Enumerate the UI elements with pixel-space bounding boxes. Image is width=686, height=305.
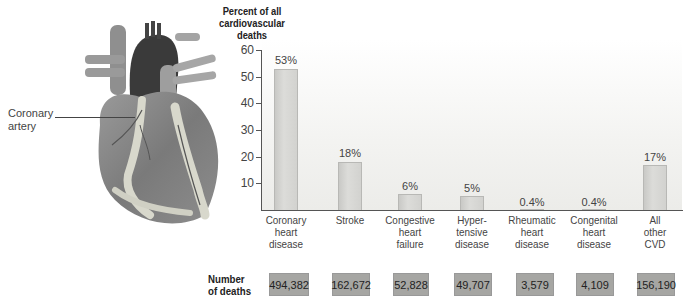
bar-stroke (338, 162, 362, 210)
bar-all-other-cvd (643, 165, 667, 210)
deaths-count-box: 49,707 (454, 273, 492, 296)
deaths-count-box: 494,382 (269, 273, 309, 296)
deaths-count-box: 162,672 (332, 273, 370, 296)
bar-hypertensive-disease (460, 196, 484, 210)
deaths-count-box: 156,190 (637, 273, 675, 296)
value-label: 5% (447, 182, 497, 194)
x-axis (261, 210, 683, 211)
value-label: 17% (630, 151, 680, 163)
y-tick-label: 30 (226, 124, 254, 136)
category-label: All other CVD (624, 214, 686, 250)
y-tick (256, 77, 262, 78)
category-label-line: Congestive (379, 214, 442, 226)
deaths-label-line: of deaths (208, 285, 251, 297)
bar-congestive-heart-failure (398, 194, 422, 210)
y-tick (256, 50, 262, 51)
category-label-line: failure (379, 238, 442, 250)
category-label-line: other (624, 226, 686, 238)
y-tick-label: 60 (226, 44, 254, 56)
deaths-count-box: 4,109 (576, 273, 614, 296)
callout-line-1: Coronary (8, 107, 53, 120)
category-label-line: All (624, 214, 686, 226)
number-of-deaths-label: Number of deaths (208, 273, 251, 297)
bar-rheumatic-heart-disease (520, 209, 544, 210)
category-label-line: disease (255, 238, 318, 250)
category-label-line: disease (563, 238, 626, 250)
category-label: Congestive heart failure (379, 214, 442, 250)
bar-congenital-heart-disease (582, 209, 606, 210)
y-axis-title-line: Percent of all (210, 5, 295, 17)
y-tick (256, 103, 262, 104)
category-label-line: Congenital (563, 214, 626, 226)
deaths-count-box: 52,828 (393, 273, 429, 296)
value-label: 0.4% (507, 196, 557, 208)
deaths-count-box: 3,579 (516, 273, 554, 296)
callout-leader-line (55, 117, 135, 118)
category-label-line: heart (563, 226, 626, 238)
y-tick (256, 157, 262, 158)
y-axis-title: Percent of all cardiovascular deaths (210, 5, 295, 41)
y-tick (256, 130, 262, 131)
category-label: Coronary heart disease (255, 214, 318, 250)
value-label: 6% (385, 180, 435, 192)
y-tick (256, 183, 262, 184)
category-label: Stroke (319, 214, 382, 226)
y-axis-title-line: cardiovascular (210, 17, 295, 29)
heart-illustration (80, 15, 240, 225)
category-label-line: heart (379, 226, 442, 238)
y-tick-label: 10 (226, 177, 254, 189)
value-label: 53% (261, 54, 311, 66)
category-label: Hyper- tensive disease (441, 214, 504, 250)
value-label: 18% (325, 147, 375, 159)
category-label-line: heart (501, 226, 564, 238)
y-tick-label: 40 (226, 97, 254, 109)
coronary-artery-callout: Coronary artery (8, 107, 53, 133)
category-label-line: disease (441, 238, 504, 250)
category-label-line: Coronary (255, 214, 318, 226)
category-label: Rheumatic heart disease (501, 214, 564, 250)
category-label-line: tensive (441, 226, 504, 238)
category-label-line: Stroke (319, 214, 382, 226)
y-tick-label: 50 (226, 71, 254, 83)
category-label-line: CVD (624, 238, 686, 250)
category-label-line: Rheumatic (501, 214, 564, 226)
bar-coronary-heart-disease (274, 69, 298, 210)
value-label: 0.4% (569, 196, 619, 208)
y-axis-title-line: deaths (210, 29, 295, 41)
category-label-line: Hyper- (441, 214, 504, 226)
category-label-line: disease (501, 238, 564, 250)
category-label: Congenital heart disease (563, 214, 626, 250)
y-tick-label: 20 (226, 151, 254, 163)
callout-line-2: artery (8, 120, 53, 133)
deaths-label-line: Number (208, 273, 251, 285)
category-label-line: heart (255, 226, 318, 238)
